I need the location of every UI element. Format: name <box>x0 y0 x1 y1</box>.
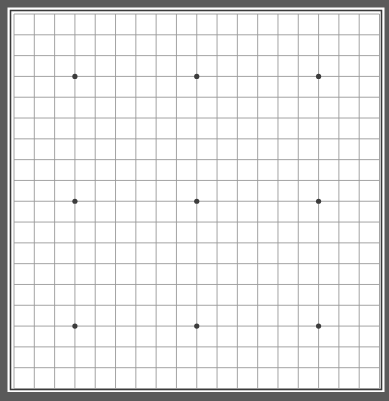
board-intersection[interactable] <box>86 46 104 64</box>
board-intersection[interactable] <box>86 213 104 231</box>
board-intersection[interactable] <box>350 150 368 168</box>
board-intersection[interactable] <box>228 275 246 293</box>
board-intersection[interactable] <box>269 5 287 23</box>
board-intersection[interactable] <box>370 275 388 293</box>
board-intersection[interactable] <box>350 359 368 377</box>
board-intersection[interactable] <box>309 5 327 23</box>
board-intersection[interactable] <box>330 234 348 252</box>
board-intersection[interactable] <box>289 379 307 397</box>
board-intersection[interactable] <box>147 130 165 148</box>
board-intersection[interactable] <box>167 338 185 356</box>
board-intersection[interactable] <box>370 67 388 85</box>
board-intersection[interactable] <box>45 317 63 335</box>
board-intersection[interactable] <box>25 192 43 210</box>
board-intersection[interactable] <box>249 379 267 397</box>
board-intersection[interactable] <box>208 150 226 168</box>
board-intersection[interactable] <box>309 234 327 252</box>
board-intersection[interactable] <box>86 379 104 397</box>
board-intersection[interactable] <box>309 255 327 273</box>
board-intersection[interactable] <box>167 5 185 23</box>
board-intersection[interactable] <box>309 109 327 127</box>
board-intersection[interactable] <box>86 275 104 293</box>
board-intersection[interactable] <box>370 338 388 356</box>
board-intersection[interactable] <box>228 255 246 273</box>
board-intersection[interactable] <box>350 275 368 293</box>
board-intersection[interactable] <box>208 26 226 44</box>
board-intersection[interactable] <box>249 5 267 23</box>
board-intersection[interactable] <box>269 359 287 377</box>
board-intersection[interactable] <box>330 26 348 44</box>
board-intersection[interactable] <box>228 296 246 314</box>
board-intersection[interactable] <box>330 130 348 148</box>
board-intersection[interactable] <box>25 26 43 44</box>
board-intersection[interactable] <box>249 296 267 314</box>
board-intersection[interactable] <box>106 26 124 44</box>
board-intersection[interactable] <box>228 338 246 356</box>
board-intersection[interactable] <box>350 26 368 44</box>
board-intersection[interactable] <box>208 255 226 273</box>
board-intersection[interactable] <box>350 5 368 23</box>
board-intersection[interactable] <box>289 192 307 210</box>
board-intersection[interactable] <box>66 88 84 106</box>
board-intersection[interactable] <box>147 5 165 23</box>
board-intersection[interactable] <box>249 338 267 356</box>
board-intersection[interactable] <box>25 67 43 85</box>
board-intersection[interactable] <box>5 359 23 377</box>
board-intersection[interactable] <box>269 338 287 356</box>
board-intersection[interactable] <box>330 46 348 64</box>
board-intersection[interactable] <box>309 26 327 44</box>
board-intersection[interactable] <box>370 359 388 377</box>
board-intersection[interactable] <box>289 5 307 23</box>
board-intersection[interactable] <box>127 192 145 210</box>
board-intersection[interactable] <box>309 317 327 335</box>
board-intersection[interactable] <box>25 109 43 127</box>
board-intersection[interactable] <box>25 5 43 23</box>
board-intersection[interactable] <box>188 359 206 377</box>
board-intersection[interactable] <box>249 275 267 293</box>
board-intersection[interactable] <box>249 255 267 273</box>
board-intersection[interactable] <box>86 5 104 23</box>
board-intersection[interactable] <box>66 192 84 210</box>
board-intersection[interactable] <box>66 67 84 85</box>
board-intersection[interactable] <box>106 130 124 148</box>
board-intersection[interactable] <box>350 109 368 127</box>
board-intersection[interactable] <box>309 171 327 189</box>
board-intersection[interactable] <box>45 213 63 231</box>
board-intersection[interactable] <box>66 296 84 314</box>
board-intersection[interactable] <box>127 5 145 23</box>
board-intersection[interactable] <box>127 255 145 273</box>
board-intersection[interactable] <box>127 379 145 397</box>
board-intersection[interactable] <box>289 130 307 148</box>
board-intersection[interactable] <box>269 213 287 231</box>
board-intersection[interactable] <box>330 338 348 356</box>
board-intersection[interactable] <box>269 192 287 210</box>
board-intersection[interactable] <box>228 67 246 85</box>
board-intersection[interactable] <box>188 171 206 189</box>
board-intersection[interactable] <box>208 275 226 293</box>
board-intersection[interactable] <box>269 255 287 273</box>
board-intersection[interactable] <box>269 296 287 314</box>
board-intersection[interactable] <box>249 317 267 335</box>
board-intersection[interactable] <box>45 255 63 273</box>
board-intersection[interactable] <box>370 109 388 127</box>
board-intersection[interactable] <box>289 26 307 44</box>
board-intersection[interactable] <box>188 130 206 148</box>
go-board-surface[interactable] <box>0 0 389 401</box>
board-intersection[interactable] <box>350 171 368 189</box>
board-intersection[interactable] <box>5 46 23 64</box>
board-intersection[interactable] <box>309 359 327 377</box>
board-intersection[interactable] <box>106 234 124 252</box>
board-intersection[interactable] <box>147 379 165 397</box>
board-intersection[interactable] <box>370 150 388 168</box>
board-intersection[interactable] <box>269 109 287 127</box>
board-intersection[interactable] <box>249 67 267 85</box>
board-intersection[interactable] <box>66 213 84 231</box>
board-intersection[interactable] <box>167 255 185 273</box>
board-intersection[interactable] <box>147 67 165 85</box>
board-intersection[interactable] <box>208 88 226 106</box>
board-intersection[interactable] <box>147 150 165 168</box>
board-intersection[interactable] <box>25 338 43 356</box>
board-intersection[interactable] <box>45 26 63 44</box>
board-intersection[interactable] <box>350 255 368 273</box>
board-intersection[interactable] <box>188 338 206 356</box>
